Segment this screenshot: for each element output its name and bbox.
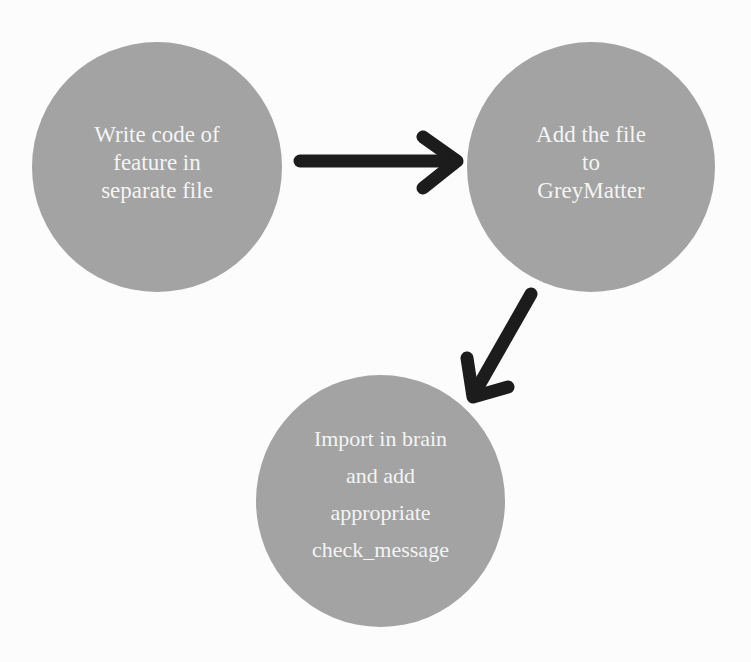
arrows-layer	[0, 0, 751, 662]
arrow-add-to-import-icon	[467, 294, 531, 397]
arrow-write-to-add-icon	[300, 137, 457, 188]
